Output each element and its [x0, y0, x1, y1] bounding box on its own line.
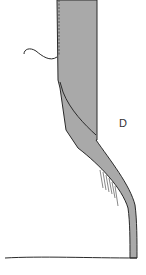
thread-icon: [24, 49, 57, 59]
figure-label: D: [119, 117, 127, 129]
baseline: [5, 257, 137, 258]
fabric-strip: [57, 0, 137, 258]
sewing-diagram: [0, 0, 146, 275]
